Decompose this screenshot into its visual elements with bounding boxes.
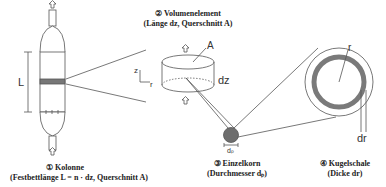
spherical-shell bbox=[305, 48, 373, 132]
axis-z-label: z bbox=[134, 66, 138, 75]
radius-label: r bbox=[348, 42, 351, 53]
particle-caption: ③ Einzelkorn (Durchmesser dₚ) bbox=[200, 159, 274, 179]
volume-subtitle: (Länge dz, Querschnitt A) bbox=[144, 19, 233, 28]
height-label: dz bbox=[218, 74, 230, 86]
particle-title: ③ Einzelkorn bbox=[214, 159, 261, 168]
volume-caption: ② Volumenelement (Länge dz, Querschnitt … bbox=[138, 9, 238, 29]
expansion-line bbox=[66, 84, 146, 102]
particle-subtitle: (Durchmesser dₚ) bbox=[207, 169, 267, 178]
column-caption: ① Kolonne (Festbettlänge L = n · dz, Que… bbox=[10, 163, 120, 183]
particle bbox=[224, 128, 239, 143]
shell-subtitle: (Dicke dr) bbox=[328, 169, 363, 178]
column-title: ① Kolonne bbox=[46, 163, 84, 172]
column-subtitle: (Festbettlänge L = n · dz, Querschnitt A… bbox=[10, 173, 148, 182]
shell-title: ④ Kugelschale bbox=[320, 159, 370, 168]
axis-r-label: r bbox=[150, 80, 153, 89]
column-length-label: L bbox=[18, 76, 24, 88]
zoom-line bbox=[238, 117, 336, 137]
thickness-label: dr bbox=[357, 132, 367, 144]
diameter-label: dₚ bbox=[227, 147, 234, 155]
shell-caption: ④ Kugelschale (Dicke dr) bbox=[305, 159, 385, 179]
area-label: A bbox=[207, 40, 214, 51]
column-vessel bbox=[24, 1, 65, 156]
volume-title: ② Volumenelement bbox=[155, 9, 221, 18]
